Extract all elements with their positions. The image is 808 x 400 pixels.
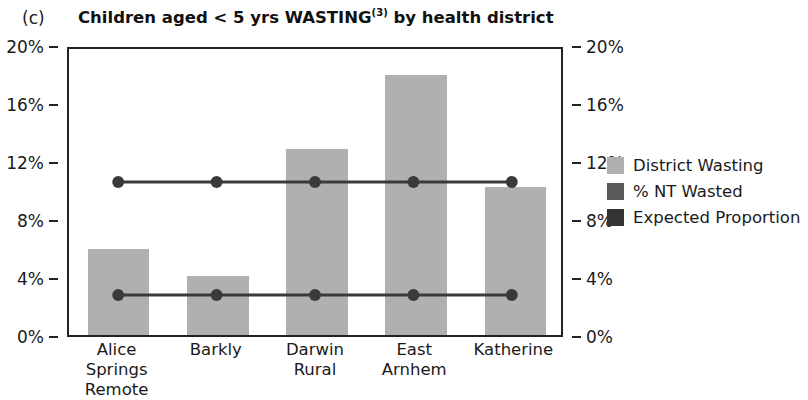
marker-point [407, 176, 419, 188]
legend-label: % NT Wasted [633, 182, 743, 201]
legend-label: District Wasting [633, 156, 763, 175]
marker-point [407, 289, 419, 301]
y-tick-mark-right-4 [572, 104, 581, 106]
marker-point [506, 176, 518, 188]
x-axis-label-line1: Darwin [286, 340, 344, 359]
y-tick-mark-left-2 [49, 220, 58, 222]
x-axis-label-line1: Katherine [474, 340, 554, 359]
y-tick-label-left-5: 20% [6, 39, 44, 56]
x-axis-label-katherine: Katherine [464, 340, 563, 360]
lines-layer [69, 49, 561, 335]
y-tick-label-right-1: 4% [586, 271, 613, 288]
chart-title-suffix: by health district [388, 8, 554, 27]
y-tick-mark-left-4 [49, 104, 58, 106]
y-tick-mark-left-3 [49, 162, 58, 164]
x-axis-label-barkly: Barkly [166, 340, 265, 360]
chart-legend: District Wasting% NT WastedExpected Prop… [607, 152, 800, 230]
marker-point [112, 289, 124, 301]
x-axis-label-east-arnhem: EastArnhem [365, 340, 464, 380]
y-tick-label-left-1: 4% [17, 271, 44, 288]
x-axis-label-line2: Arnhem [365, 360, 464, 380]
y-tick-mark-right-0 [572, 336, 581, 338]
y-tick-mark-right-1 [572, 278, 581, 280]
y-tick-label-right-5: 20% [586, 39, 624, 56]
y-tick-label-right-4: 16% [586, 97, 624, 114]
x-axis-labels: Alice SpringsRemoteBarklyDarwinRuralEast… [67, 340, 563, 396]
x-axis-label-line2: Remote [67, 380, 166, 400]
x-axis-label-alice-springs-remote: Alice SpringsRemote [67, 340, 166, 400]
marker-point [309, 289, 321, 301]
y-tick-mark-left-5 [49, 46, 58, 48]
y-tick-mark-left-0 [49, 336, 58, 338]
y-tick-label-left-3: 12% [6, 155, 44, 172]
y-axis-left: 0%4%8%12%16%20% [0, 47, 58, 337]
y-tick-label-left-0: 0% [17, 329, 44, 346]
y-tick-label-left-4: 16% [6, 97, 44, 114]
y-tick-mark-right-5 [572, 46, 581, 48]
y-tick-label-left-2: 8% [17, 213, 44, 230]
panel-letter: (c) [22, 8, 45, 28]
x-axis-label-darwin-rural: DarwinRural [265, 340, 364, 380]
y-tick-mark-left-1 [49, 278, 58, 280]
legend-item-expected-proportion: Expected Proportion [607, 204, 800, 230]
legend-item-district-wasting: District Wasting [607, 152, 800, 178]
chart-figure: (c) Children aged < 5 yrs WASTING(3) by … [0, 0, 808, 400]
x-axis-label-line1: Barkly [190, 340, 242, 359]
chart-title-superscript: (3) [372, 7, 388, 18]
legend-swatch-icon [607, 157, 624, 174]
chart-title: Children aged < 5 yrs WASTING(3) by heal… [78, 7, 548, 27]
marker-point [309, 176, 321, 188]
y-tick-label-right-0: 0% [586, 329, 613, 346]
legend-swatch-icon [607, 183, 624, 200]
marker-point [506, 289, 518, 301]
y-tick-mark-right-3 [572, 162, 581, 164]
x-axis-label-line1: East [396, 340, 432, 359]
marker-point [211, 176, 223, 188]
plot-area [67, 47, 563, 337]
x-axis-label-line1: Alice Springs [86, 340, 148, 379]
y-tick-mark-right-2 [572, 220, 581, 222]
marker-point [211, 289, 223, 301]
legend-swatch-icon [607, 209, 624, 226]
legend-label: Expected Proportion [633, 208, 800, 227]
legend-item-nt-wasted: % NT Wasted [607, 178, 800, 204]
x-axis-label-line2: Rural [265, 360, 364, 380]
chart-title-main: Children aged < 5 yrs WASTING [78, 8, 372, 27]
marker-point [112, 176, 124, 188]
